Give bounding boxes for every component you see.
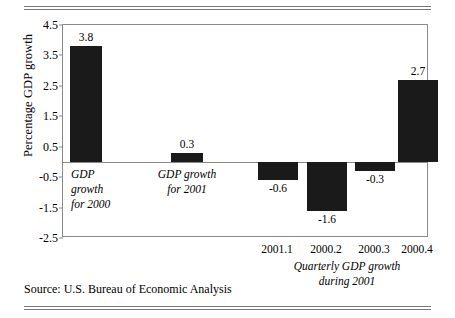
y-tick-label: 4.5 xyxy=(43,18,58,33)
y-tick-label: -1.5 xyxy=(39,200,58,215)
rule-line xyxy=(24,306,431,307)
x-tick-label: 2001.1 xyxy=(261,243,293,255)
x-axis-group-caption: Quarterly GDP growth during 2001 xyxy=(257,259,437,289)
y-tick-label: 2.5 xyxy=(43,78,58,93)
bar xyxy=(307,162,347,211)
y-tick-label: -0.5 xyxy=(39,170,58,185)
y-tick-mark xyxy=(59,238,63,239)
y-tick-label: -2.5 xyxy=(39,231,58,246)
y-tick-mark xyxy=(59,116,63,117)
x-tick-label: 2000.4 xyxy=(401,243,433,255)
y-tick-mark xyxy=(59,207,63,208)
y-tick-label: 1.5 xyxy=(43,109,58,124)
y-tick-label: 3.5 xyxy=(43,48,58,63)
annotation-gdp-2001: GDP growth for 2001 xyxy=(132,167,242,197)
bar xyxy=(355,162,395,171)
source-note: Source: U.S. Bureau of Economic Analysis xyxy=(24,282,232,297)
annotation-gdp-2000: GDP growth for 2000 xyxy=(71,167,110,213)
chart-figure: Percentage GDP growth 4.53.52.51.50.5-0.… xyxy=(0,0,455,318)
bar-value-label: 3.8 xyxy=(79,31,93,43)
bar-value-label: -0.3 xyxy=(366,173,384,185)
x-tick-label: 2000.2 xyxy=(310,243,342,255)
bar-value-label: 2.7 xyxy=(411,65,425,77)
plot-area: 4.53.52.51.50.5-0.5-1.5-2.53.80.3-0.6-1.… xyxy=(62,24,428,237)
y-tick-label: 0.5 xyxy=(43,139,58,154)
y-axis-label: Percentage GDP growth xyxy=(21,16,36,176)
y-tick-mark xyxy=(59,85,63,86)
bar-value-label: -1.6 xyxy=(318,213,336,225)
bar xyxy=(398,80,438,162)
bar xyxy=(171,153,203,162)
bar-value-label: -0.6 xyxy=(269,182,287,194)
bar xyxy=(70,46,102,162)
x-tick-label: 2000.3 xyxy=(358,243,390,255)
y-tick-mark xyxy=(59,146,63,147)
bar-value-label: 0.3 xyxy=(180,138,194,150)
bar xyxy=(258,162,298,180)
bottom-rule xyxy=(24,306,431,310)
y-tick-mark xyxy=(59,25,63,26)
y-tick-mark xyxy=(59,55,63,56)
rule-line xyxy=(24,309,431,310)
y-tick-mark xyxy=(59,177,63,178)
